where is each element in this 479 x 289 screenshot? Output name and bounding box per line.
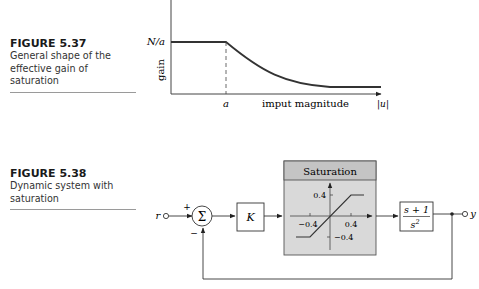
plus-sign: + <box>183 202 191 212</box>
y-tick-label: N/a <box>146 36 165 47</box>
figures-canvas: N/a gain a imput magnitude |u| r Σ + − K… <box>0 0 479 289</box>
input-terminal <box>163 213 168 218</box>
x-end-label: |u| <box>377 99 389 110</box>
minus-sign: − <box>190 228 198 238</box>
sat-tick-y-pos: 0.4 <box>313 191 326 200</box>
sat-tick-x-neg: −0.4 <box>298 220 317 229</box>
plant-numerator: s + 1 <box>404 204 429 215</box>
sat-tick-x-pos: 0.4 <box>345 220 358 229</box>
block-diagram: r Σ + − K Saturation 0.4 −0.4 −0.4 0.4 s… <box>156 161 477 279</box>
gain-chart: N/a gain a imput magnitude |u| <box>146 0 389 110</box>
input-label: r <box>156 210 162 221</box>
output-terminal <box>462 211 467 216</box>
sat-tick-y-neg: −0.4 <box>334 233 353 242</box>
x-tick-label: a <box>223 98 229 109</box>
sum-symbol: Σ <box>198 210 206 224</box>
saturation-title: Saturation <box>303 166 357 177</box>
y-axis-label: gain <box>155 58 166 81</box>
output-label: y <box>469 208 476 219</box>
gain-curve <box>171 42 381 87</box>
x-axis-label: imput magnitude <box>262 98 349 109</box>
gain-block-label: K <box>245 211 255 224</box>
